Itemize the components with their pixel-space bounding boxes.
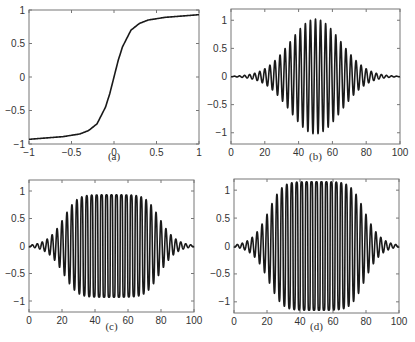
curve-d bbox=[234, 182, 399, 310]
x-tick-label: 0 bbox=[26, 315, 32, 326]
y-tick-label: −0.5 bbox=[207, 99, 227, 110]
y-tick-label: 0.5 bbox=[11, 38, 25, 49]
panel-d: 020406080100−1−0.500.51 (d) bbox=[210, 179, 408, 333]
y-tick-label: 0.5 bbox=[213, 43, 227, 54]
y-tick-label: −0.5 bbox=[210, 268, 230, 279]
x-tick-label: 0 bbox=[231, 316, 237, 327]
ticks-b: 020406080100−1−0.500.51 bbox=[207, 9, 409, 158]
caption-c: (c) bbox=[105, 320, 118, 333]
y-tick-label: −1 bbox=[14, 296, 26, 307]
x-tick-label: 1 bbox=[196, 147, 202, 158]
x-tick-label: 40 bbox=[293, 147, 305, 158]
x-tick-label: 100 bbox=[391, 316, 408, 327]
y-tick-label: 1 bbox=[221, 15, 227, 26]
y-tick-label: −1 bbox=[219, 296, 231, 307]
x-tick-label: 80 bbox=[360, 316, 372, 327]
curve-c bbox=[29, 195, 194, 297]
x-tick-label: 20 bbox=[259, 147, 271, 158]
x-tick-label: 0.5 bbox=[150, 147, 164, 158]
x-tick-label: 80 bbox=[155, 315, 167, 326]
x-tick-label: 20 bbox=[56, 315, 68, 326]
y-tick-label: 1 bbox=[19, 186, 25, 197]
y-tick-label: 0.5 bbox=[216, 213, 230, 224]
y-tick-label: 1 bbox=[19, 5, 25, 16]
y-tick-label: 0 bbox=[19, 72, 25, 83]
x-tick-label: 100 bbox=[392, 147, 409, 158]
curve-b bbox=[231, 19, 400, 133]
panel-a: −1−0.500.51−1−0.500.51 (a) bbox=[5, 5, 202, 164]
y-tick-label: 0 bbox=[19, 241, 25, 252]
caption-b: (b) bbox=[309, 150, 322, 163]
x-tick-label: 40 bbox=[294, 316, 306, 327]
panel-b: 020406080100−1−0.500.51 (b) bbox=[207, 9, 409, 163]
x-tick-label: 0 bbox=[228, 147, 234, 158]
y-tick-label: −0.5 bbox=[5, 105, 25, 116]
x-tick-label: 60 bbox=[122, 315, 134, 326]
x-tick-label: 60 bbox=[327, 316, 339, 327]
figure: −1−0.500.51−1−0.500.51 (a) 020406080100−… bbox=[0, 0, 415, 342]
y-tick-label: 1 bbox=[224, 185, 230, 196]
y-tick-label: 0 bbox=[221, 71, 227, 82]
x-tick-label: 100 bbox=[186, 315, 203, 326]
y-tick-label: −0.5 bbox=[5, 268, 25, 279]
x-tick-label: 80 bbox=[361, 147, 373, 158]
panel-c: 020406080100−1−0.500.51 (c) bbox=[5, 180, 203, 333]
y-tick-label: −1 bbox=[216, 127, 228, 138]
x-tick-label: 60 bbox=[327, 147, 339, 158]
y-tick-label: −1 bbox=[14, 139, 26, 150]
x-tick-label: −0.5 bbox=[62, 147, 82, 158]
x-tick-label: 40 bbox=[89, 315, 101, 326]
curve-a bbox=[29, 15, 199, 140]
y-tick-label: 0.5 bbox=[11, 213, 25, 224]
x-tick-label: −1 bbox=[23, 147, 35, 158]
caption-d: (d) bbox=[310, 320, 323, 333]
y-tick-label: 0 bbox=[224, 241, 230, 252]
x-tick-label: 20 bbox=[261, 316, 273, 327]
ticks-a: −1−0.500.51−1−0.500.51 bbox=[5, 5, 202, 159]
caption-a: (a) bbox=[108, 150, 121, 163]
